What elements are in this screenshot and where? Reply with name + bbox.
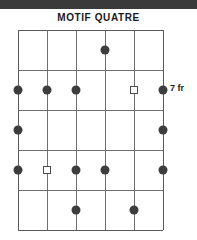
fret-line <box>18 70 163 71</box>
fret-line <box>18 150 163 151</box>
top-dark-band <box>0 0 197 9</box>
open-note-marker <box>130 86 138 94</box>
filled-note-marker <box>101 46 110 55</box>
filled-note-marker <box>14 166 23 175</box>
filled-note-marker <box>159 126 168 135</box>
filled-note-marker <box>72 206 81 215</box>
fret-line <box>18 230 163 231</box>
fret-position-label: 7 fr <box>170 83 184 93</box>
filled-note-marker <box>159 86 168 95</box>
fret-line <box>18 110 163 111</box>
string-line <box>105 30 106 230</box>
filled-note-marker <box>14 126 23 135</box>
filled-note-marker <box>43 86 52 95</box>
filled-note-marker <box>14 86 23 95</box>
page-title: MOTIF QUATRE <box>0 12 197 23</box>
filled-note-marker <box>72 166 81 175</box>
fret-line <box>18 190 163 191</box>
fretboard-diagram <box>18 30 163 230</box>
string-line <box>47 30 48 230</box>
fret-line <box>18 30 163 31</box>
filled-note-marker <box>72 86 81 95</box>
filled-note-marker <box>159 166 168 175</box>
filled-note-marker <box>101 166 110 175</box>
filled-note-marker <box>130 206 139 215</box>
string-line <box>134 30 135 230</box>
string-line <box>76 30 77 230</box>
open-note-marker <box>43 166 51 174</box>
